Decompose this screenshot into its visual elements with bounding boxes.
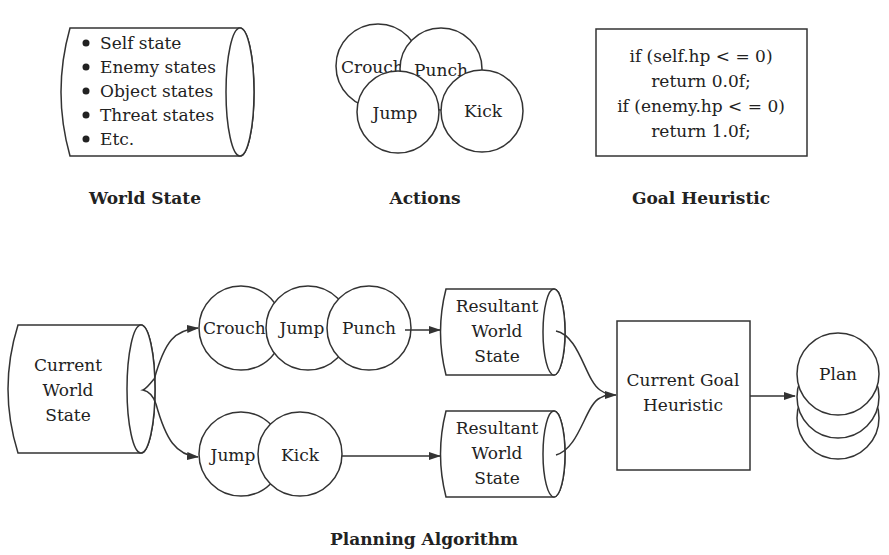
world-state-cylinder: Self state Enemy states Object states Th… xyxy=(61,28,254,156)
world-state-item: Threat states xyxy=(100,105,214,125)
bullet-icon xyxy=(83,88,90,95)
plan-action-label: Kick xyxy=(281,445,320,465)
plan-action-label: Crouch xyxy=(203,318,266,338)
current-goal-heuristic-box: Current Goal Heuristic xyxy=(617,321,750,470)
arrow-to-bottom-branch xyxy=(156,404,198,457)
resultant-line: Resultant xyxy=(456,418,539,438)
plan-label: Plan xyxy=(819,364,857,384)
top-branch-actions: Crouch Jump Punch xyxy=(199,286,411,370)
plan-action-label: Jump xyxy=(209,445,256,465)
current-world-state-line: World xyxy=(43,380,94,400)
bullet-icon xyxy=(83,112,90,119)
bottom-branch-actions: Jump Kick xyxy=(199,412,342,496)
world-state-item: Etc. xyxy=(100,129,134,149)
world-state-caption: World State xyxy=(88,188,201,208)
bullet-icon xyxy=(83,64,90,71)
code-line: if (self.hp < = 0) xyxy=(629,46,772,66)
code-line: if (enemy.hp < = 0) xyxy=(617,96,785,116)
resultant-line: State xyxy=(474,468,520,488)
goal-heuristic-box: if (self.hp < = 0) return 0.0f; if (enem… xyxy=(596,29,807,156)
current-world-state-line: Current xyxy=(34,355,102,375)
resultant-line: State xyxy=(474,346,520,366)
resultant-line: World xyxy=(472,321,523,341)
planning-caption: Planning Algorithm xyxy=(330,529,518,549)
plan-action-label: Punch xyxy=(342,318,396,338)
code-line: return 1.0f; xyxy=(651,121,751,141)
arrow-to-top-branch xyxy=(154,328,198,380)
world-state-item: Self state xyxy=(100,33,181,53)
goal-heuristic-caption: Goal Heuristic xyxy=(632,188,770,208)
resultant-world-state-bottom: Resultant World State xyxy=(441,411,566,497)
goal-box-line: Current Goal xyxy=(627,370,740,390)
plan-action-label: Jump xyxy=(278,318,325,338)
world-state-item: Object states xyxy=(100,81,213,101)
actions-cluster: Crouch Punch Jump Kick xyxy=(336,24,523,153)
resultant-line: World xyxy=(472,443,523,463)
resultant-line: Resultant xyxy=(456,296,539,316)
goal-box-line: Heuristic xyxy=(643,395,723,415)
current-world-state-line: State xyxy=(45,405,91,425)
plan-stack: Plan xyxy=(797,333,879,459)
resultant-world-state-top: Resultant World State xyxy=(441,289,566,375)
actions-caption: Actions xyxy=(388,188,460,208)
bullet-icon xyxy=(83,40,90,47)
code-line: return 0.0f; xyxy=(651,71,751,91)
action-label-kick: Kick xyxy=(464,101,503,121)
action-label-jump: Jump xyxy=(371,103,418,123)
bullet-icon xyxy=(83,136,90,143)
world-state-item: Enemy states xyxy=(100,57,216,77)
current-world-state-cylinder: Current World State xyxy=(8,325,155,453)
